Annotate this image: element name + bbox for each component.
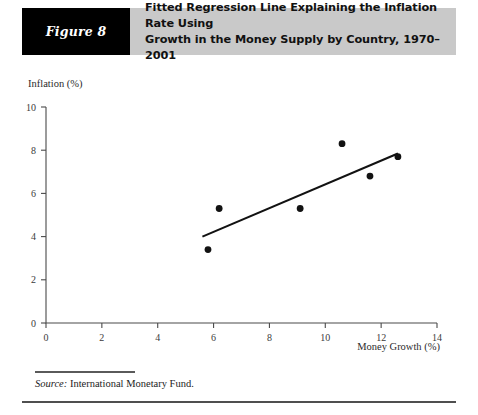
y-tick-label: 6 [31, 188, 36, 199]
source-note: Source: International Monetary Fund. [35, 378, 194, 389]
y-tick-label: 4 [31, 231, 36, 242]
data-point [367, 173, 374, 180]
svg-text:Inflation (%): Inflation (%) [28, 78, 83, 90]
y-tick-label: 0 [31, 318, 36, 329]
y-tick-label: 8 [31, 145, 36, 156]
figure-title: Fitted Regression Line Explaining the In… [130, 8, 456, 55]
x-tick-label: 2 [99, 332, 104, 343]
y-tick-label: 10 [26, 102, 36, 113]
scatter-chart: Inflation (%) 0246810 02468101214 Money … [0, 60, 478, 360]
svg-text:Money Growth (%): Money Growth (%) [357, 341, 440, 353]
regression-line [202, 153, 398, 236]
figure-title-line-2: Growth in the Money Supply by Country, 1… [145, 32, 448, 64]
x-axis-ticks: 02468101214 [44, 323, 443, 343]
data-point [205, 246, 212, 253]
bottom-rule [22, 401, 456, 403]
y-tick-label: 2 [31, 274, 36, 285]
data-point [216, 205, 223, 212]
source-label: Source: [35, 378, 67, 389]
figure-header: Figure 8 Fitted Regression Line Explaini… [22, 8, 456, 55]
y-axis-label: Inflation (%) [28, 78, 83, 90]
figure-number-tag: Figure 8 [22, 8, 130, 55]
y-axis-ticks: 0246810 [26, 102, 46, 329]
data-points [205, 140, 402, 253]
x-tick-label: 4 [155, 332, 160, 343]
source-divider [35, 371, 135, 373]
data-point [395, 153, 402, 160]
x-tick-label: 10 [320, 332, 330, 343]
regression-line-path [202, 153, 398, 236]
figure-page: Figure 8 Fitted Regression Line Explaini… [0, 0, 478, 415]
x-tick-label: 8 [267, 332, 272, 343]
source-text: International Monetary Fund. [70, 378, 194, 389]
figure-title-line-1: Fitted Regression Line Explaining the In… [145, 0, 448, 32]
data-point [297, 205, 304, 212]
axis-lines [46, 107, 437, 323]
x-tick-label: 0 [44, 332, 49, 343]
x-axis-label: Money Growth (%) [357, 341, 440, 353]
x-tick-label: 6 [211, 332, 216, 343]
data-point [339, 140, 346, 147]
chart-container: Inflation (%) 0246810 02468101214 Money … [0, 60, 478, 360]
